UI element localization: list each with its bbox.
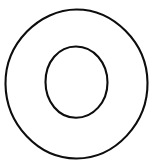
figure-background [0, 0, 154, 167]
ring-outline-illustration: Ring (annulus) outline drawing A hand-dr… [0, 0, 154, 167]
figure-canvas: Ring (annulus) outline drawing A hand-dr… [0, 0, 154, 167]
